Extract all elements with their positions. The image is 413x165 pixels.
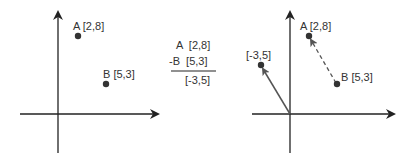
left-point-b [103,81,109,87]
left-panel: A [2,8] B [5,3] [20,12,158,153]
dashed-vector-b-to-a [311,40,336,83]
right-label-a: A [2,8] [300,20,331,32]
right-point-a [306,33,312,39]
vector-subtraction-diagram: A [2,8] B [5,3] A [2,8] -B [5,3] [-3,5] … [0,0,413,165]
left-label-b: B [5,3] [103,68,135,80]
right-label-diff: [-3,5] [246,49,271,61]
left-point-a [75,33,81,39]
calc-line-minus-b: -B [5,3] [169,55,208,67]
left-label-a: A [2,8] [73,20,104,32]
right-point-diff [258,62,264,68]
calc-line-a: A [2,8] [176,39,210,51]
subtraction-calculation: A [2,8] -B [5,3] [-3,5] [169,39,216,86]
right-point-b [334,81,340,87]
right-panel: A [2,8] B [5,3] [-3,5] [246,12,394,153]
solid-vector-origin-to-diff [263,69,290,114]
right-label-b: B [5,3] [341,71,373,83]
calc-result: [-3,5] [185,74,210,86]
